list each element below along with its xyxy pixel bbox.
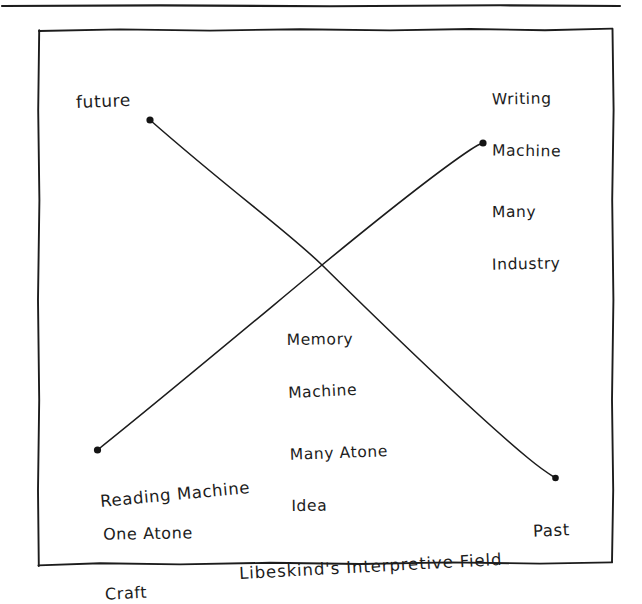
label-memory-line4: Idea — [291, 498, 327, 516]
label-craft-line2: Craft — [105, 583, 148, 603]
label-memory-machine: Memory Machine Many Atone Idea — [285, 295, 390, 551]
sketch-frame-right — [612, 29, 614, 562]
node-dot-future — [146, 116, 153, 123]
label-past: Past — [531, 484, 571, 578]
sketch-frame-top — [39, 29, 612, 31]
label-one-atone-craft: One Atone Craft — [102, 488, 196, 604]
label-memory-line2: Machine — [288, 382, 358, 403]
sketch-frame-left — [38, 30, 39, 566]
label-writing-line1: Writing — [492, 90, 552, 108]
label-writing-line3: Many — [492, 204, 536, 222]
node-dot-writing-machine — [479, 139, 486, 146]
label-memory-line1: Memory — [287, 331, 354, 349]
diagram-caption-text: Libeskind's Interpretive Field — [239, 551, 503, 584]
top-rule — [2, 5, 620, 6]
label-past-text: Past — [533, 521, 571, 541]
label-future-text: future — [76, 91, 132, 112]
label-writing-line4: Industry — [492, 255, 561, 274]
label-writing-machine: Writing Machine Many Industry — [492, 56, 561, 308]
label-writing-line2: Machine — [492, 142, 561, 160]
label-craft-line1: One Atone — [103, 524, 193, 543]
label-future: future — [75, 53, 132, 149]
diagram-caption: Libeskind's Interpretive Field — [237, 515, 504, 604]
node-dot-reading-machine — [94, 446, 101, 453]
node-dot-past — [552, 475, 559, 482]
label-memory-line3: Many Atone — [290, 443, 389, 464]
